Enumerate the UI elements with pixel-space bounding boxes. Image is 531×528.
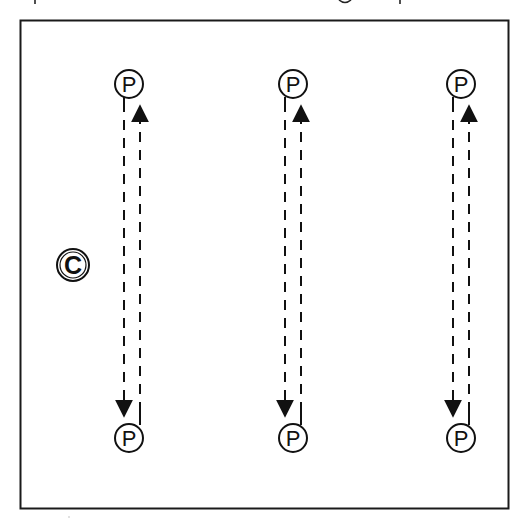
- player-label: P: [286, 426, 301, 451]
- player-top-right: P: [447, 70, 475, 98]
- column-middle: P P: [279, 70, 307, 452]
- drill-diagram: C P P P P P: [0, 0, 531, 528]
- column-left: P P: [115, 70, 143, 452]
- player-bottom-left: P: [115, 424, 143, 452]
- player-label: P: [454, 426, 469, 451]
- player-label: P: [122, 426, 137, 451]
- player-bottom-right: P: [447, 424, 475, 452]
- scan-speck: [68, 516, 70, 518]
- coach-label: C: [64, 251, 82, 279]
- player-top-middle: P: [279, 70, 307, 98]
- coach-marker: C: [57, 249, 89, 281]
- player-top-left: P: [115, 70, 143, 98]
- cropped-caption-fragments: [35, 0, 400, 4]
- player-bottom-middle: P: [279, 424, 307, 452]
- column-right: P P: [447, 70, 475, 452]
- player-label: P: [454, 72, 469, 97]
- player-label: P: [122, 72, 137, 97]
- field-boundary: [21, 21, 509, 509]
- player-label: P: [286, 72, 301, 97]
